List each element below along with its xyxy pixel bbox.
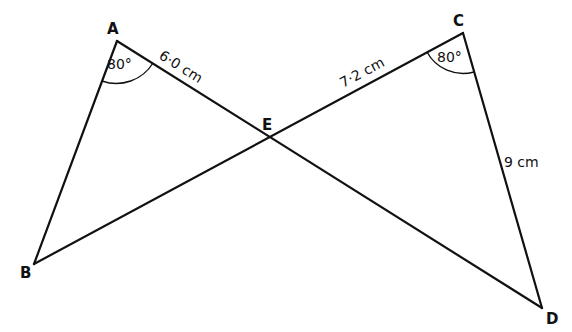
angle-label-c: 80° xyxy=(437,49,462,65)
vertex-label-a: A xyxy=(107,20,119,38)
segment-ad xyxy=(117,41,542,308)
vertex-label-b: B xyxy=(20,264,31,282)
vertex-label-c: C xyxy=(453,12,464,30)
vertex-label-e: E xyxy=(262,116,272,134)
segment-ab xyxy=(34,41,117,264)
measure-label-ce: 7·2 cm xyxy=(337,54,387,91)
segment-bc xyxy=(34,33,463,264)
measure-label-cd: 9 cm xyxy=(504,154,539,170)
geometry-diagram: A C E B D 80° 80° 6·0 cm 7·2 cm 9 cm xyxy=(0,0,572,332)
vertex-label-d: D xyxy=(546,310,558,328)
angle-label-a: 80° xyxy=(107,56,132,72)
